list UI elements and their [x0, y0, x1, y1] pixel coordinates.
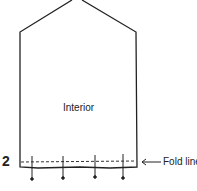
fold-line-label: Fold line — [163, 156, 197, 167]
panel-outline — [20, 0, 137, 168]
sewing-diagram: Interior 2 Fold line — [0, 0, 197, 191]
step-number: 2 — [2, 153, 10, 169]
fold-line — [21, 161, 136, 162]
interior-label: Interior — [63, 102, 94, 113]
arrow-left-icon — [142, 159, 161, 165]
